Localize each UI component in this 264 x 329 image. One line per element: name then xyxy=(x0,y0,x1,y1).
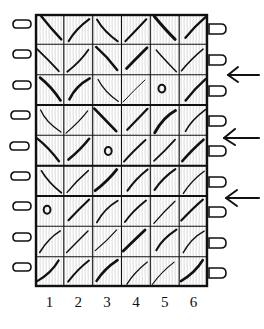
column-label-6: 6 xyxy=(184,295,204,310)
column-label-5: 5 xyxy=(155,295,175,310)
row-marker-arrow-1 xyxy=(228,67,259,82)
row-marker-arrows xyxy=(224,67,259,206)
left-edge-loops xyxy=(10,20,31,271)
column-label-2: 2 xyxy=(68,295,88,310)
row-marker-arrow-2 xyxy=(224,129,259,145)
right-edge-loops xyxy=(209,24,226,278)
column-label-1: 1 xyxy=(39,295,59,310)
column-label-3: 3 xyxy=(97,295,117,310)
stitch-chart-figure: 123456 xyxy=(0,0,264,329)
chart-canvas xyxy=(0,0,264,329)
row-marker-arrow-3 xyxy=(226,190,259,206)
column-label-4: 4 xyxy=(126,295,146,310)
